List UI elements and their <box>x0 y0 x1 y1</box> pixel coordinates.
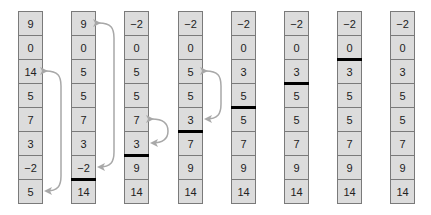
array-cell: 7 <box>284 131 309 156</box>
array-cell: −2 <box>178 11 203 36</box>
array-column-2: 9 0 5 5 7 3 −2 14 <box>71 11 96 203</box>
array-cell: 0 <box>284 35 309 60</box>
array-cell: −2 <box>337 11 362 36</box>
array-cell: −2 <box>390 11 415 36</box>
array-cell: 7 <box>124 107 149 132</box>
array-cell: 5 <box>71 83 96 108</box>
array-cell: −2 <box>284 11 309 36</box>
array-cell: 14 <box>18 59 43 84</box>
array-cell: −2 <box>231 11 256 36</box>
array-cell: 3 <box>18 131 43 156</box>
array-cell: 5 <box>231 83 256 108</box>
array-cell: 5 <box>124 83 149 108</box>
array-cell: 3 <box>284 59 309 84</box>
array-cell: 14 <box>337 179 362 204</box>
array-cell: 14 <box>124 179 149 204</box>
sorted-boundary-bar <box>71 178 96 181</box>
sorted-boundary-bar <box>124 154 149 157</box>
sorted-boundary-bar <box>284 82 309 85</box>
swap-arrow-icon <box>99 23 114 167</box>
array-cell: 9 <box>18 11 43 36</box>
array-cell: 5 <box>284 107 309 132</box>
array-cell: 5 <box>18 179 43 204</box>
sorted-boundary-bar <box>178 130 203 133</box>
array-cell: 7 <box>178 131 203 156</box>
array-cell: 14 <box>231 179 256 204</box>
array-cell: 7 <box>337 131 362 156</box>
array-cell: 3 <box>390 59 415 84</box>
array-column-7: −2 0 3 5 5 7 9 14 <box>337 11 362 203</box>
swap-arrows <box>0 0 431 215</box>
array-cell: 5 <box>390 107 415 132</box>
sorted-boundary-bar <box>337 58 362 61</box>
array-column-4: −2 0 5 5 3 7 9 14 <box>178 11 203 203</box>
array-cell: 7 <box>390 131 415 156</box>
array-cell: 0 <box>178 35 203 60</box>
array-cell: 3 <box>178 107 203 132</box>
array-cell: 7 <box>18 107 43 132</box>
array-cell: 14 <box>71 179 96 204</box>
array-cell: 0 <box>390 35 415 60</box>
array-cell: 5 <box>231 107 256 132</box>
array-cell: 14 <box>390 179 415 204</box>
swap-arrow-icon <box>206 71 221 119</box>
sorted-boundary-bar <box>231 106 256 109</box>
array-cell: 3 <box>337 59 362 84</box>
array-column-5: −2 0 3 5 5 7 9 14 <box>231 11 256 203</box>
array-cell: 5 <box>18 83 43 108</box>
array-cell: 0 <box>337 35 362 60</box>
array-cell: 9 <box>390 155 415 180</box>
array-cell: 5 <box>337 107 362 132</box>
array-cell: 9 <box>284 155 309 180</box>
array-cell: 9 <box>231 155 256 180</box>
array-column-8: −2 0 3 5 5 7 9 14 <box>390 11 415 203</box>
array-cell: 14 <box>178 179 203 204</box>
array-cell: 7 <box>231 131 256 156</box>
array-cell: 5 <box>178 83 203 108</box>
array-cell: 7 <box>71 107 96 132</box>
array-cell: 3 <box>71 131 96 156</box>
array-cell: −2 <box>18 155 43 180</box>
array-column-6: −2 0 3 5 5 7 9 14 <box>284 11 309 203</box>
array-column-1: 9 0 14 5 7 3 −2 5 <box>18 11 43 203</box>
array-cell: 5 <box>71 59 96 84</box>
array-cell: 0 <box>18 35 43 60</box>
array-cell: 0 <box>231 35 256 60</box>
array-cell: 0 <box>124 35 149 60</box>
array-cell: −2 <box>124 11 149 36</box>
array-cell: 5 <box>124 59 149 84</box>
array-column-3: −2 0 5 5 7 3 9 14 <box>124 11 149 203</box>
array-cell: 9 <box>337 155 362 180</box>
array-cell: 9 <box>178 155 203 180</box>
swap-arrow-icon <box>46 71 61 191</box>
array-cell: −2 <box>71 155 96 180</box>
array-cell: 3 <box>124 131 149 156</box>
swap-arrow-icon <box>152 119 168 143</box>
array-cell: 5 <box>337 83 362 108</box>
array-cell: 5 <box>178 59 203 84</box>
array-cell: 5 <box>390 83 415 108</box>
array-cell: 14 <box>284 179 309 204</box>
array-cell: 0 <box>71 35 96 60</box>
array-cell: 3 <box>231 59 256 84</box>
array-cell: 5 <box>284 83 309 108</box>
array-cell: 9 <box>71 11 96 36</box>
array-cell: 9 <box>124 155 149 180</box>
